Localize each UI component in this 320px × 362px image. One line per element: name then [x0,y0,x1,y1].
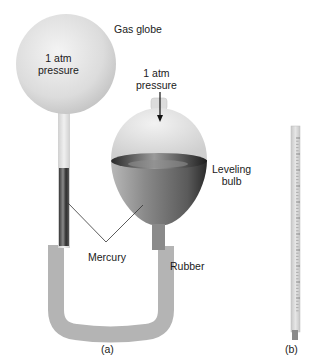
bulb-stem [152,224,165,250]
leveling-bulb-label: Leveling bulb [212,163,251,187]
gas-globe-inner-label: 1 atm pressure [38,52,79,76]
leveling-bulb-line2: bulb [212,175,251,187]
rubber-label: Rubber [170,260,204,272]
left-tube-mercury [59,168,69,246]
gas-globe-label: Gas globe [114,23,162,35]
top-pressure-label: 1 atm pressure [136,67,177,91]
top-pressure-line1: 1 atm [136,67,177,79]
leveling-bulb-line1: Leveling [212,163,251,175]
caption-a: (a) [101,343,114,355]
top-pressure-line2: pressure [136,79,177,91]
caption-b: (b) [285,343,298,355]
gas-globe-inner-line1: 1 atm [38,52,79,64]
gas-globe-inner-line2: pressure [38,64,79,76]
bulb-mercury [111,160,207,226]
graduated-tube [291,126,300,340]
mercury-surface-highlight [128,160,188,168]
mercury-label: Mercury [88,251,126,263]
